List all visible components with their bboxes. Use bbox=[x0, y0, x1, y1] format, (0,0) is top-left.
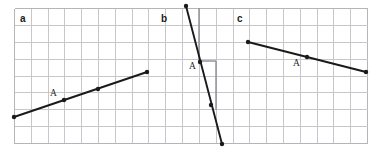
panel-label-a: a bbox=[20, 13, 26, 24]
point-marker-a bbox=[145, 70, 149, 74]
panel-label-c: c bbox=[237, 13, 243, 24]
point-marker-c bbox=[246, 40, 250, 44]
point-marker-a bbox=[96, 87, 100, 91]
point-marker-b bbox=[209, 103, 213, 107]
figure-canvas: aAbAcA bbox=[0, 0, 378, 151]
point-marker-c bbox=[305, 55, 309, 59]
point-label-a-b: A bbox=[189, 61, 196, 71]
point-marker-a bbox=[62, 98, 66, 102]
point-marker-a bbox=[12, 115, 16, 119]
point-label-a-c: A bbox=[293, 58, 300, 68]
line-segment-a bbox=[14, 72, 147, 117]
line-segments-layer bbox=[14, 6, 366, 144]
point-marker-b bbox=[198, 60, 202, 64]
panel-label-b: b bbox=[161, 13, 167, 24]
point-marker-b bbox=[220, 142, 224, 146]
grid-figure-svg: aAbAcA bbox=[0, 0, 378, 151]
point-marker-c bbox=[364, 70, 368, 74]
point-marker-b bbox=[184, 4, 188, 8]
point-label-a-a: A bbox=[50, 88, 57, 98]
